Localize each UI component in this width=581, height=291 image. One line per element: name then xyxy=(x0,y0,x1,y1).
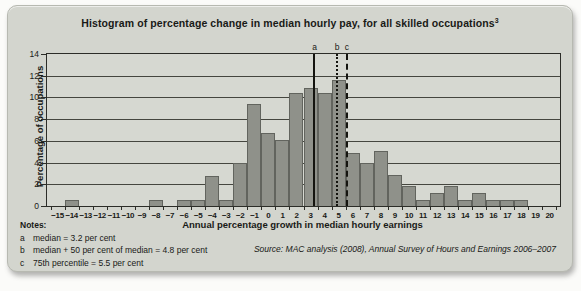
note-c-key: c xyxy=(20,258,33,268)
y-axis-tick xyxy=(41,97,46,98)
x-axis-tick xyxy=(191,206,192,210)
histogram-bar xyxy=(500,200,514,207)
note-c: c 75th percentile = 5.5 per cent xyxy=(20,258,207,268)
note-c-text: 75th percentile = 5.5 per cent xyxy=(33,258,143,268)
histogram-bar xyxy=(261,133,275,206)
y-axis-tick xyxy=(41,119,46,120)
notes-heading: Notes: xyxy=(20,220,207,230)
y-axis-tick xyxy=(41,163,46,164)
x-axis-tick xyxy=(79,206,80,210)
y-axis-tick-label: 6 xyxy=(19,136,39,146)
histogram-bar xyxy=(177,200,191,207)
x-axis-tick xyxy=(219,206,220,210)
histogram-bar xyxy=(65,200,79,207)
x-axis-tick xyxy=(416,206,417,210)
x-axis-tick xyxy=(542,206,543,210)
x-axis-tick xyxy=(528,206,529,210)
reference-line-label-c: c xyxy=(345,42,349,52)
x-axis-tick xyxy=(500,206,501,210)
note-a: a median = 3.2 per cent xyxy=(20,233,207,243)
x-axis-tick xyxy=(177,206,178,210)
x-axis-tick xyxy=(205,206,206,210)
histogram-bar xyxy=(289,93,303,206)
x-axis-tick xyxy=(275,206,276,210)
x-axis-tick xyxy=(65,206,66,210)
histogram-bar xyxy=(402,186,416,206)
y-axis-tick xyxy=(41,206,46,207)
reference-line-b: b xyxy=(336,54,338,206)
x-axis-tick xyxy=(346,206,347,210)
x-axis-tick xyxy=(472,206,473,210)
x-axis-tick xyxy=(444,206,445,210)
y-axis-tick-label: 10 xyxy=(19,92,39,102)
x-axis-tick xyxy=(51,206,52,210)
x-axis-tick xyxy=(135,206,136,210)
x-axis-tick xyxy=(374,206,375,210)
note-b-key: b xyxy=(20,245,33,255)
histogram-bar xyxy=(275,140,289,206)
histogram-bar xyxy=(458,200,472,207)
note-a-text: median = 3.2 per cent xyxy=(33,233,115,243)
y-axis-tick xyxy=(41,76,46,77)
reference-line-a: a xyxy=(313,54,315,206)
y-axis-tick-label: 4 xyxy=(19,158,39,168)
reference-line-label-b: b xyxy=(335,42,340,52)
y-axis-tick-label: 8 xyxy=(19,114,39,124)
x-axis-tick xyxy=(261,206,262,210)
x-axis-tick xyxy=(149,206,150,210)
histogram-bar xyxy=(430,193,444,206)
histogram-bar xyxy=(486,200,500,207)
y-axis-tick xyxy=(41,184,46,185)
y-axis-tick-label: 2 xyxy=(19,179,39,189)
x-axis-tick xyxy=(107,206,108,210)
y-axis-tick-label: 12 xyxy=(19,71,39,81)
note-b: b median + 50 per cent of median = 4.8 p… xyxy=(20,245,207,255)
histogram-bar xyxy=(318,93,332,206)
chart-title: Histogram of percentage change in median… xyxy=(8,17,572,29)
histogram-bar xyxy=(374,151,388,206)
histogram-bar xyxy=(191,200,205,207)
x-axis-tick xyxy=(402,206,403,210)
histogram-bar xyxy=(472,193,486,206)
chart-title-footnote-marker: 3 xyxy=(495,17,499,24)
histogram-bar xyxy=(444,186,458,206)
x-axis-tick xyxy=(247,206,248,210)
gridline-y-12 xyxy=(47,76,560,77)
histogram-bar xyxy=(514,200,528,207)
x-axis-tick xyxy=(289,206,290,210)
plot-area: 02468101214−15−14−13−12−11−10−9−8−7−6−5−… xyxy=(46,53,561,207)
histogram-bar xyxy=(304,88,318,206)
y-axis-tick-label: 0 xyxy=(19,201,39,211)
y-axis-tick xyxy=(41,141,46,142)
x-axis-tick xyxy=(93,206,94,210)
x-axis-tick xyxy=(121,206,122,210)
x-axis-tick xyxy=(304,206,305,210)
histogram-bar xyxy=(219,200,233,207)
x-axis-tick xyxy=(332,206,333,210)
notes-block: Notes: a median = 3.2 per cent b median … xyxy=(20,220,207,268)
reference-line-c: c xyxy=(346,54,348,206)
histogram-bar xyxy=(247,104,261,206)
x-axis-tick xyxy=(360,206,361,210)
histogram-bar xyxy=(388,175,402,206)
x-axis-tick xyxy=(458,206,459,210)
histogram-bar xyxy=(360,163,374,206)
note-b-text: median + 50 per cent of median = 4.8 per… xyxy=(33,245,207,255)
reference-line-label-a: a xyxy=(312,42,317,52)
chart-title-text: Histogram of percentage change in median… xyxy=(81,17,494,29)
x-axis-tick xyxy=(430,206,431,210)
histogram-bar xyxy=(233,163,247,206)
x-axis-tick xyxy=(163,206,164,210)
histogram-bar xyxy=(332,80,346,206)
note-a-key: a xyxy=(20,233,33,243)
histogram-bar xyxy=(205,176,219,206)
x-axis-tick xyxy=(556,206,557,210)
histogram-bar xyxy=(416,200,430,207)
chart-panel: Histogram of percentage change in median… xyxy=(7,5,573,272)
x-axis-tick xyxy=(514,206,515,210)
x-axis-tick xyxy=(388,206,389,210)
histogram-bar xyxy=(346,153,360,206)
y-axis-tick xyxy=(41,54,46,55)
x-axis-tick xyxy=(233,206,234,210)
y-axis-tick-label: 14 xyxy=(19,49,39,59)
